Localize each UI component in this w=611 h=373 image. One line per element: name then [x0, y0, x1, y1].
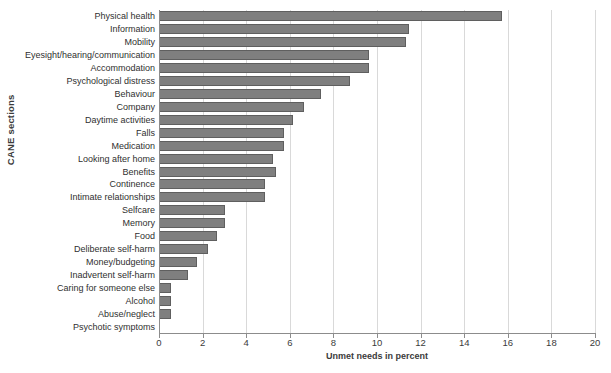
category-label: Food	[134, 231, 155, 241]
gridline	[464, 10, 465, 333]
bar-deliberate-self-harm	[160, 244, 208, 254]
chart-figure: CANE sections Physical healthInformation…	[0, 0, 611, 373]
category-label: Deliberate self-harm	[74, 244, 155, 254]
bar-physical-health	[160, 11, 502, 21]
category-label: Behaviour	[114, 89, 155, 99]
x-tick-label: 6	[287, 337, 292, 348]
bar-alcohol	[160, 296, 171, 306]
category-label: Alcohol	[125, 296, 155, 306]
bar-accommodation	[160, 63, 369, 73]
category-label: Money/budgeting	[86, 257, 155, 267]
x-tick-label: 18	[546, 337, 557, 348]
x-tick-label: 12	[415, 337, 426, 348]
category-label: Benefits	[122, 167, 155, 177]
bar-memory	[160, 218, 225, 228]
category-label: Selfcare	[122, 205, 155, 215]
x-tick-label: 10	[372, 337, 383, 348]
category-label: Intimate relationships	[70, 192, 155, 202]
bar-information	[160, 24, 409, 34]
category-label: Medication	[111, 141, 155, 151]
bar-intimate-relationships	[160, 192, 265, 202]
x-tick-label: 14	[459, 337, 470, 348]
bar-mobility	[160, 37, 406, 47]
bar-daytime-activities	[160, 115, 293, 125]
plot-area	[159, 10, 596, 334]
category-label: Mobility	[124, 37, 155, 47]
bar-food	[160, 231, 217, 241]
x-axis-title: Unmet needs in percent	[159, 351, 595, 361]
bar-medication	[160, 141, 284, 151]
bar-psychological-distress	[160, 76, 350, 86]
x-tick-label: 8	[331, 337, 336, 348]
bar-abuse-neglect	[160, 309, 171, 319]
gridline	[551, 10, 552, 333]
y-axis-title: CANE sections	[5, 94, 16, 165]
gridline	[421, 10, 422, 333]
bar-falls	[160, 128, 284, 138]
gridline	[595, 10, 596, 333]
bar-looking-after-home	[160, 154, 273, 164]
category-label: Memory	[122, 218, 155, 228]
bar-inadvertent-self-harm	[160, 270, 188, 280]
category-label: Daytime activities	[85, 115, 155, 125]
bar-caring-for-someone-else	[160, 283, 171, 293]
category-label: Physical health	[94, 11, 155, 21]
category-label: Caring for someone else	[57, 283, 155, 293]
category-label: Continence	[109, 179, 155, 189]
bar-benefits	[160, 167, 276, 177]
category-label: Psychotic symptoms	[73, 322, 155, 332]
category-label: Company	[116, 102, 155, 112]
category-label: Looking after home	[78, 154, 155, 164]
category-label: Falls	[136, 128, 155, 138]
bar-continence	[160, 179, 265, 189]
category-label: Eyesight/hearing/communication	[25, 50, 155, 60]
bar-behaviour	[160, 89, 321, 99]
category-label: Psychological distress	[66, 76, 155, 86]
bar-selfcare	[160, 205, 225, 215]
x-tick-label: 2	[200, 337, 205, 348]
bar-eyesight-hearing-communication	[160, 50, 369, 60]
x-tick-label: 20	[590, 337, 601, 348]
x-tick-label: 4	[244, 337, 249, 348]
gridline	[377, 10, 378, 333]
category-label: Accommodation	[90, 63, 155, 73]
gridline	[508, 10, 509, 333]
category-label: Abuse/neglect	[98, 309, 155, 319]
category-label: Information	[110, 24, 155, 34]
x-tick-label: 16	[503, 337, 514, 348]
bar-money-budgeting	[160, 257, 197, 267]
x-tick-label: 0	[156, 337, 161, 348]
bar-company	[160, 102, 304, 112]
category-label: Inadvertent self-harm	[70, 270, 155, 280]
